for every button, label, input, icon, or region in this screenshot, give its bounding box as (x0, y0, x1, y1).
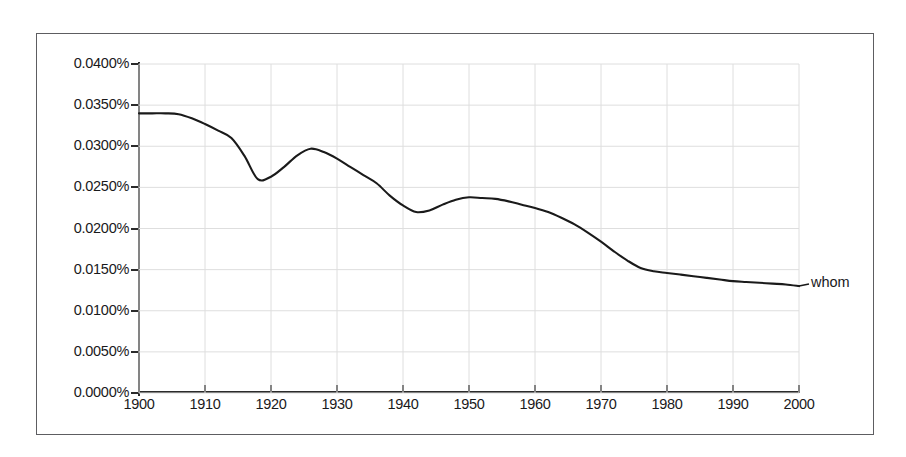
y-axis-tick (131, 186, 139, 188)
y-axis-tick-label: 0.0100% (74, 302, 129, 318)
x-axis-tick-label: 1990 (717, 396, 748, 412)
x-axis-tick-label: 1980 (651, 396, 682, 412)
y-axis-tick-label: 0.0400% (74, 55, 129, 71)
y-axis-tick-label: 0.0150% (74, 261, 129, 277)
y-axis-tick (131, 269, 139, 271)
x-axis-tick-label: 1910 (189, 396, 220, 412)
x-axis-tick-label: 1920 (255, 396, 286, 412)
x-axis-tick-label: 1930 (321, 396, 352, 412)
y-axis-tick-label: 0.0300% (74, 137, 129, 153)
y-axis-tick-label: 0.0050% (74, 343, 129, 359)
y-axis-labels: 0.0400%0.0350%0.0300%0.0250%0.0200%0.015… (37, 34, 129, 436)
y-axis-tick-label: 0.0250% (74, 178, 129, 194)
series-end-label: whom (811, 274, 850, 290)
series-whom (139, 64, 799, 393)
x-axis-tick-label: 1970 (585, 396, 616, 412)
y-axis-tick (131, 145, 139, 147)
y-axis-tick (131, 104, 139, 106)
y-axis-tick (131, 351, 139, 353)
x-axis-labels: 1900191019201930194019501960197019801990… (37, 396, 875, 426)
x-axis-tick-label: 1960 (519, 396, 550, 412)
chart-screenshot: 0.0400%0.0350%0.0300%0.0250%0.0200%0.015… (0, 0, 906, 457)
x-axis-tick-label: 2000 (783, 396, 814, 412)
x-axis-tick-label: 1940 (387, 396, 418, 412)
y-axis-tick (131, 63, 139, 65)
y-axis-tick-label: 0.0350% (74, 96, 129, 112)
x-axis-tick-label: 1900 (123, 396, 154, 412)
chart-frame: 0.0400%0.0350%0.0300%0.0250%0.0200%0.015… (36, 33, 874, 435)
data-line-whom (139, 113, 799, 286)
series-leader-line (799, 284, 809, 286)
plot-area (139, 64, 799, 393)
y-axis-tick (131, 310, 139, 312)
y-axis-tick (131, 228, 139, 230)
x-axis-tick-label: 1950 (453, 396, 484, 412)
y-axis-tick-label: 0.0200% (74, 220, 129, 236)
